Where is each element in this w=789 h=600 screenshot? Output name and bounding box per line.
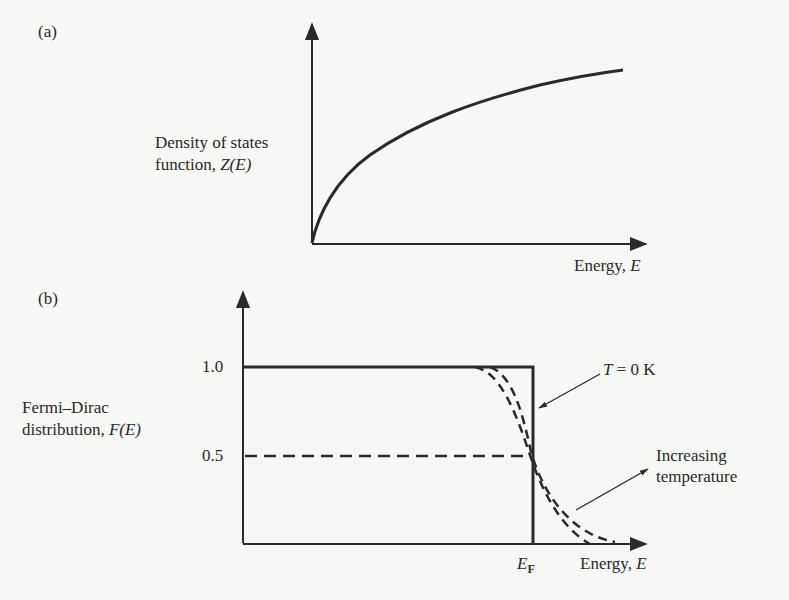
temperature-pointer-arrow (576, 469, 648, 510)
ylabel-prefix: function, (155, 155, 220, 174)
ylabel-prefix: distribution, (22, 420, 109, 439)
tick-1-0: 1.0 (202, 357, 223, 377)
t0-rest: = 0 K (612, 360, 655, 379)
ylabel-func: Z(E) (220, 155, 251, 174)
density-of-states-curve (312, 70, 623, 243)
fermi-curve-high-t (490, 367, 615, 542)
annotation-temp-line1: Increasing (656, 446, 727, 466)
panel-b-axes (243, 292, 646, 544)
panel-a-label: (a) (38, 22, 57, 42)
annotation-temp-line2: temperature (656, 467, 737, 487)
panel-b-label: (b) (38, 289, 58, 309)
ef-main: E (517, 554, 527, 573)
ef-sub: F (527, 562, 534, 576)
annotation-t0: T = 0 K (603, 360, 656, 380)
panel-a-axes (312, 24, 646, 244)
panel-b-ylabel-line2: distribution, F(E) (22, 420, 141, 440)
xlabel-prefix: Energy, (580, 554, 636, 573)
ylabel-func: F(E) (109, 420, 141, 439)
figure-canvas (0, 0, 789, 600)
panel-b-xlabel: Energy, E (580, 554, 647, 574)
panel-a-ylabel-line2: function, Z(E) (155, 155, 251, 175)
panel-b-ylabel-line1: Fermi–Dirac (22, 398, 109, 418)
xlabel-prefix: Energy, (574, 256, 630, 275)
xlabel-var: E (636, 554, 646, 573)
panel-a-xlabel: Energy, E (574, 256, 641, 276)
xlabel-var: E (630, 256, 640, 275)
t0-pointer-arrow (539, 374, 600, 408)
fermi-energy-label: EF (517, 554, 535, 575)
tick-0-5: 0.5 (202, 446, 223, 466)
panel-a-ylabel-line1: Density of states (155, 133, 268, 153)
